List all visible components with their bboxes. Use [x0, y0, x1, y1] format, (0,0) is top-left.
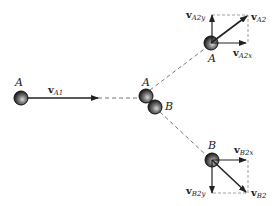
collision-diagram: A vA1 A B A vA2 vA2x vA2y B vB2 vB2x vB2… — [0, 0, 278, 206]
ball-B-collision — [148, 100, 162, 114]
label-B-collision: B — [164, 100, 173, 113]
label-A-initial: A — [14, 76, 23, 89]
label-vA1: vA1 — [47, 84, 63, 97]
label-vB2y: vB2y — [185, 185, 206, 198]
label-vA2: vA2 — [250, 11, 267, 24]
label-vA2x: vA2x — [232, 47, 252, 60]
vB2-arrow — [212, 160, 246, 192]
label-vB2x: vB2x — [233, 144, 253, 157]
B-outgoing-path-dashed — [160, 112, 207, 156]
label-B-final: B — [207, 139, 216, 152]
vA2-arrow — [211, 16, 247, 43]
label-A-collision: A — [141, 76, 150, 89]
A-outgoing-path-dashed — [150, 47, 207, 90]
label-vB2: vB2 — [250, 187, 267, 200]
label-A-final: A — [207, 52, 216, 65]
ball-A-initial — [14, 91, 28, 105]
label-vA2y: vA2y — [185, 9, 206, 22]
